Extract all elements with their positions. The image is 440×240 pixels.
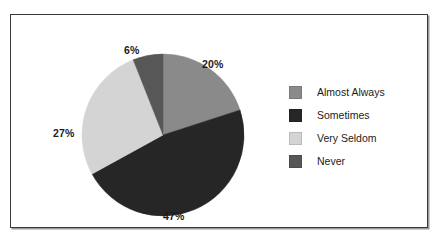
legend-item-very-seldom: Very Seldom [289,127,409,150]
legend-swatch-icon-never [289,155,302,168]
legend-label-very-seldom: Very Seldom [317,133,377,144]
legend-label-almost-always: Almost Always [317,87,385,98]
legend-item-never: Never [289,150,409,173]
chart-legend: Almost Always Sometimes Very Seldom Neve… [289,81,409,173]
legend-swatch-icon-almost-always [289,86,302,99]
pie-label-almost-always: 20% [202,59,223,70]
pie-slice-group [82,54,244,216]
pie-label-sometimes: 47% [163,211,184,222]
legend-swatch-icon-very-seldom [289,132,302,145]
legend-item-almost-always: Almost Always [289,81,409,104]
pie-chart-svg [81,53,245,217]
pie-label-never: 6% [124,45,139,56]
pie-chart [81,53,245,217]
legend-label-never: Never [317,156,345,167]
legend-swatch-icon-sometimes [289,109,302,122]
chart-frame: 20% 47% 27% 6% Almost Always Sometimes V… [10,14,428,228]
pie-label-very-seldom: 27% [53,128,74,139]
legend-item-sometimes: Sometimes [289,104,409,127]
legend-label-sometimes: Sometimes [317,110,370,121]
